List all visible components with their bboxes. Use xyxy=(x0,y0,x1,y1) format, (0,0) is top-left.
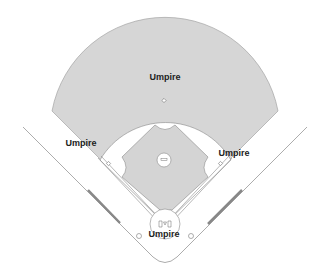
umpire-second-base-label: Umpire xyxy=(149,72,180,82)
umpire-first-base-label: Umpire xyxy=(218,148,249,158)
first-base-dugout xyxy=(208,190,242,224)
umpire-home-plate-label: Umpire xyxy=(148,229,179,239)
on-deck-circle-left xyxy=(137,234,142,239)
third-base-dugout xyxy=(88,190,120,223)
pitchers-rubber xyxy=(161,159,167,161)
on-deck-circle-right xyxy=(189,234,194,239)
umpire-third-base-label: Umpire xyxy=(65,138,96,148)
